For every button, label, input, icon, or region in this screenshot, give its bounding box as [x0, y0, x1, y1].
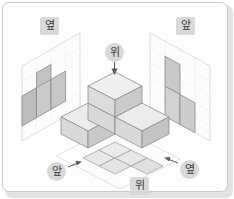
label-top-center: 위 [105, 43, 124, 62]
label-top-bottom: 위 [130, 177, 149, 195]
label-front-top: 앞 [176, 17, 195, 35]
label-front-bottom: 앞 [47, 162, 66, 181]
label-side-bottom: 옆 [180, 160, 199, 179]
label-side-top: 옆 [40, 17, 59, 35]
figure-container: 옆 앞 위 앞 옆 위 [0, 0, 234, 199]
